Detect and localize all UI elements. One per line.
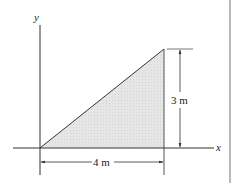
base-dimension-label: 4 m <box>93 156 110 168</box>
y-axis-label: y <box>33 11 39 23</box>
triangle-diagram: x y 3 m 4 m <box>0 0 241 183</box>
height-dimension-label: 3 m <box>171 94 188 106</box>
diagram-canvas: x y 3 m 4 m <box>0 0 241 183</box>
x-axis-label: x <box>215 141 221 153</box>
